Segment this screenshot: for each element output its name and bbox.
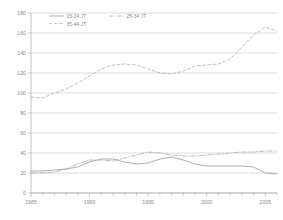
legend-label-2: 25-34 JT [127, 13, 147, 19]
y-tick-label: 20 [20, 170, 26, 176]
y-tick-label: 100 [17, 90, 26, 96]
x-tick-label: 1985 [25, 199, 37, 205]
series-line-2 [31, 151, 277, 173]
y-tick-label: 160 [17, 30, 26, 36]
x-tick-label: 2000 [201, 199, 213, 205]
y-tick-label: 80 [20, 110, 26, 116]
series-line-3 [31, 27, 277, 98]
legend-label-3: 35-44 JT [67, 21, 87, 27]
y-tick-label: 60 [20, 130, 26, 136]
y-tick-label: 140 [17, 50, 26, 56]
line-chart: 0204060801001201401601801985199019952000… [0, 0, 283, 220]
x-tick-label: 1990 [84, 199, 96, 205]
y-tick-label: 40 [20, 150, 26, 156]
x-tick-label: 2005 [260, 199, 272, 205]
series-line-1 [31, 157, 277, 174]
legend-label-1: 15-24 JT [67, 13, 87, 19]
chart-canvas: 0204060801001201401601801985199019952000… [0, 0, 283, 220]
y-tick-label: 0 [23, 190, 26, 196]
y-tick-label: 120 [17, 70, 26, 76]
y-tick-label: 180 [17, 10, 26, 16]
x-tick-label: 1995 [142, 199, 154, 205]
